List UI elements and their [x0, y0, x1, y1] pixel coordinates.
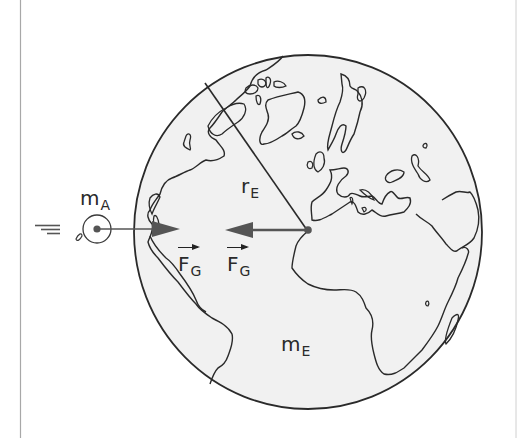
- motion-lines-icon: [35, 226, 60, 234]
- label-earth-mass: mE: [281, 334, 310, 354]
- label-force-on-earth: FG: [227, 254, 250, 274]
- label-force-on-mass-main: F: [178, 252, 190, 276]
- label-earth-radius-sub: E: [250, 185, 259, 201]
- vector-arrow-icon: [227, 247, 247, 248]
- label-small-mass-sub: A: [100, 197, 110, 213]
- label-force-on-earth-main: F: [227, 252, 239, 276]
- vector-arrow-icon: [178, 247, 198, 248]
- label-force-on-earth-sub: G: [240, 263, 251, 279]
- label-earth-radius: rE: [241, 176, 259, 196]
- label-force-on-mass: FG: [178, 254, 201, 274]
- label-earth-mass-sub: E: [301, 343, 310, 359]
- label-force-on-mass-sub: G: [191, 263, 202, 279]
- gravity-diagram: [0, 0, 517, 438]
- label-earth-radius-main: r: [241, 174, 249, 198]
- label-small-mass-main: m: [80, 186, 99, 210]
- label-small-mass: mA: [80, 188, 110, 208]
- label-earth-mass-main: m: [281, 332, 300, 356]
